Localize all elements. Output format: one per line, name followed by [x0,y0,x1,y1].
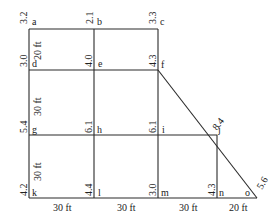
point-value-a: 3.2 [18,12,29,25]
dimension-horizontal-2: 30 ft [117,202,136,213]
point-value-f: 4.3 [147,55,158,68]
point-value-b: 2.1 [84,12,95,25]
point-label-g: g [32,124,37,135]
point-value-g: 5.4 [18,121,29,134]
point-value-h: 6.1 [83,121,94,134]
point-label-a: a [32,16,37,27]
dimension-vertical-top: 20 ft [32,41,43,60]
dimension-horizontal-4: 20 ft [229,202,248,213]
point-value-l: 4.4 [83,184,94,197]
point-value-j: 8.4 [210,116,226,133]
grid-lines [29,29,257,198]
point-label-k: k [32,187,37,198]
point-values: 3.2 2.1 3.3 3.0 4.0 4.3 5.4 6.1 6.1 8.4 … [18,12,270,197]
point-value-d: 3.0 [18,55,29,68]
point-value-c: 3.3 [147,12,158,25]
point-label-c: c [160,16,165,27]
point-value-m: 3.0 [147,184,158,197]
point-value-n: 4.3 [206,184,217,197]
point-label-f: f [161,59,165,70]
point-value-i: 6.1 [147,121,158,134]
point-label-b: b [97,16,102,27]
dimension-horizontal-1: 30 ft [53,202,72,213]
line-f-o-diagonal [158,70,257,198]
point-label-h: h [97,124,102,135]
point-label-i: i [162,124,165,135]
grid-diagram: a b c d e f g h i j k l m n o 3.2 2.1 3.… [0,0,273,221]
point-label-n: n [219,187,224,198]
dimension-vertical-middle: 30 ft [32,97,43,116]
point-label-m: m [161,187,169,198]
dimension-vertical-bottom: 30 ft [32,162,43,181]
dimension-horizontal-3: 30 ft [179,202,198,213]
point-label-l: l [98,187,101,198]
point-value-k: 4.2 [18,184,29,197]
point-value-o: 5.6 [254,175,270,191]
point-label-e: e [98,58,103,69]
point-label-o: o [245,187,250,198]
point-value-e: 4.0 [83,55,94,68]
